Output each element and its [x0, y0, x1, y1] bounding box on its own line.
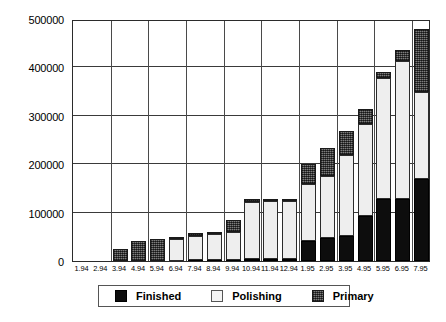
x-tick-label: 12.94 — [280, 264, 298, 273]
bar-segment-polishing — [244, 202, 259, 259]
bar-column — [226, 220, 241, 261]
bar-segment-polishing — [282, 201, 297, 260]
primary-swatch — [312, 290, 324, 302]
bar-column — [150, 239, 165, 261]
bar-segment-finished — [301, 241, 316, 261]
bar-column — [263, 199, 278, 261]
bar-segment-primary — [414, 29, 429, 92]
x-tick-label: 10.94 — [242, 264, 260, 273]
y-tick-label: 100000 — [28, 208, 64, 220]
bar-segment-finished — [263, 259, 278, 261]
plot-area — [72, 20, 430, 262]
bar-segment-polishing — [320, 176, 335, 238]
bar-segment-primary — [320, 148, 335, 176]
legend-label-primary: Primary — [333, 290, 374, 302]
y-tick-label: 400000 — [28, 62, 64, 74]
bar-column — [395, 50, 410, 261]
bar-segment-polishing — [301, 184, 316, 241]
x-tick-label: 4.95 — [357, 264, 371, 273]
bar-column — [207, 232, 222, 261]
x-tick-label: 7.95 — [414, 264, 428, 273]
y-axis-tick-labels: 0100000200000300000400000500000 — [0, 0, 68, 322]
legend-label-polishing: Polishing — [232, 290, 282, 302]
bar-segment-primary — [339, 131, 354, 155]
x-tick-label: 3.95 — [338, 264, 352, 273]
bar-segment-finished — [339, 236, 354, 261]
x-tick-label: 1.95 — [301, 264, 315, 273]
bar-segment-finished — [320, 238, 335, 261]
bar-segment-finished — [282, 259, 297, 261]
bar-segment-primary — [301, 164, 316, 183]
x-tick-label: 3.94 — [112, 264, 126, 273]
bar-column — [169, 238, 184, 261]
bar-column — [414, 29, 429, 261]
bar-column — [282, 199, 297, 261]
bar-segment-polishing — [188, 236, 203, 260]
bar-segment-primary — [207, 232, 222, 234]
bar-segment-primary — [169, 237, 184, 239]
legend-item-finished: Finished — [115, 286, 181, 306]
legend-label-finished: Finished — [136, 290, 181, 302]
bar-column — [320, 148, 335, 261]
chart-legend: Finished Polishing Primary — [98, 285, 350, 307]
bar-column — [188, 233, 203, 261]
legend-item-polishing: Polishing — [211, 286, 282, 306]
y-tick-label: 0 — [58, 256, 64, 268]
bar-segment-polishing — [358, 124, 373, 216]
x-tick-label: 2.94 — [93, 264, 107, 273]
x-tick-label: 4.94 — [131, 264, 145, 273]
x-tick-label: 5.95 — [376, 264, 390, 273]
bar-segment-primary — [244, 199, 259, 202]
bar-segment-primary — [113, 249, 128, 261]
x-tick-label: 1.94 — [74, 264, 88, 273]
bar-column — [131, 241, 146, 261]
bar-column — [301, 164, 316, 261]
polishing-swatch — [211, 290, 223, 302]
x-tick-label: 2.95 — [319, 264, 333, 273]
bar-segment-polishing — [207, 234, 222, 260]
x-tick-label: 5.94 — [150, 264, 164, 273]
y-tick-label: 500000 — [28, 14, 64, 26]
x-tick-label: 9.94 — [225, 264, 239, 273]
bar-segment-polishing — [339, 155, 354, 236]
bar-column — [376, 72, 391, 261]
y-tick-label: 300000 — [28, 111, 64, 123]
bar-segment-primary — [131, 241, 146, 261]
bar-segment-finished — [244, 259, 259, 261]
bar-segment-primary — [188, 233, 203, 236]
bar-segment-polishing — [226, 232, 241, 259]
bar-series-group — [73, 21, 429, 261]
bar-segment-primary — [376, 72, 391, 78]
y-tick-label: 200000 — [28, 159, 64, 171]
bar-column — [358, 109, 373, 261]
bar-segment-primary — [358, 109, 373, 124]
x-tick-label: 7.94 — [187, 264, 201, 273]
bar-segment-primary — [226, 220, 241, 233]
bar-segment-polishing — [263, 201, 278, 260]
bar-column — [244, 199, 259, 261]
bar-segment-primary — [263, 199, 278, 201]
legend-item-primary: Primary — [312, 286, 374, 306]
bar-segment-finished — [395, 199, 410, 261]
bar-segment-polishing — [414, 92, 429, 179]
bar-segment-polishing — [169, 239, 184, 261]
x-tick-label: 6.95 — [395, 264, 409, 273]
bar-segment-primary — [150, 239, 165, 261]
bar-segment-polishing — [376, 78, 391, 199]
bar-segment-primary — [395, 50, 410, 61]
finished-swatch — [115, 290, 127, 302]
bar-segment-finished — [358, 216, 373, 261]
bar-segment-finished — [376, 199, 391, 261]
bar-segment-finished — [414, 179, 429, 261]
x-tick-label: 6.94 — [169, 264, 183, 273]
stacked-bar-chart: 0100000200000300000400000500000 1.942.94… — [0, 0, 446, 322]
bar-segment-primary — [282, 199, 297, 201]
x-tick-label: 11.94 — [261, 264, 278, 273]
x-axis-tick-labels: 1.942.943.944.945.946.947.948.949.9410.9… — [72, 264, 430, 280]
bar-column — [339, 131, 354, 261]
x-tick-label: 8.94 — [206, 264, 220, 273]
bar-column — [113, 249, 128, 261]
bar-segment-polishing — [395, 61, 410, 199]
